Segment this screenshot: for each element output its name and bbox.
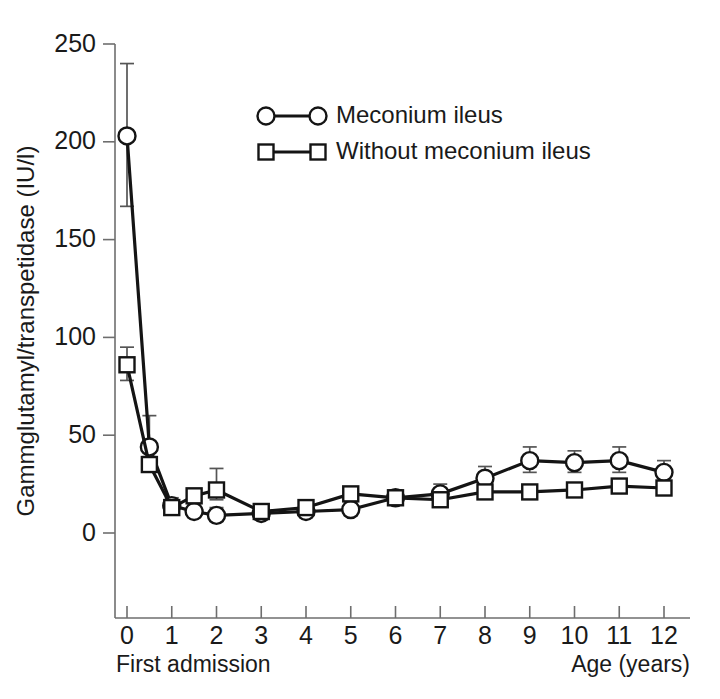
data-point-square-marker — [567, 482, 582, 497]
x-tick-label: 9 — [523, 621, 537, 649]
x-tick-label: 4 — [299, 621, 313, 649]
data-point-square-marker — [164, 500, 179, 515]
data-point-square-marker — [657, 481, 672, 496]
x-tick-label: 0 — [120, 621, 134, 649]
data-point-square-marker — [343, 486, 358, 501]
series-markers — [120, 357, 672, 519]
chart-figure: 050100150200250 0123456789101112 Gammglu… — [0, 0, 720, 699]
data-point-square-marker — [254, 504, 269, 519]
data-point-square-marker — [120, 357, 135, 372]
data-series-group — [119, 64, 673, 524]
series-markers — [119, 127, 673, 523]
data-point-square-marker — [187, 488, 202, 503]
series-without-meconium-ileus — [120, 347, 672, 519]
axes — [115, 44, 690, 618]
data-point-circle-marker — [258, 108, 275, 125]
x-axis-ticks: 0123456789101112 — [120, 606, 678, 649]
x-tick-label: 8 — [478, 621, 492, 649]
y-tick-label: 200 — [54, 126, 96, 154]
data-point-circle-marker — [342, 501, 359, 518]
data-point-circle-marker — [521, 452, 538, 469]
x-tick-label: 10 — [561, 621, 589, 649]
data-point-square-marker — [209, 482, 224, 497]
legend-label: Meconium ileus — [336, 101, 503, 128]
y-tick-label: 250 — [54, 29, 96, 57]
data-point-square-marker — [433, 492, 448, 507]
data-point-circle-marker — [119, 127, 136, 144]
gammaglutamyl-transpeptidase-line-chart: 050100150200250 0123456789101112 Gammglu… — [0, 0, 720, 699]
y-axis-title: Gammglutamyl/transpetidase (IU/l) — [12, 146, 39, 517]
data-point-square-marker — [388, 490, 403, 505]
data-point-circle-marker — [566, 454, 583, 471]
chart-legend: Meconium ileusWithout meconium ileus — [258, 101, 591, 164]
data-point-circle-marker — [186, 503, 203, 520]
data-point-circle-marker — [208, 507, 225, 524]
data-point-circle-marker — [310, 108, 327, 125]
legend-item-meconium-ileus: Meconium ileus — [258, 101, 503, 128]
x-tick-label: 6 — [389, 621, 403, 649]
data-point-square-marker — [142, 457, 157, 472]
data-point-square-marker — [522, 484, 537, 499]
y-tick-label: 50 — [68, 420, 96, 448]
x-tick-label: 2 — [210, 621, 224, 649]
data-point-circle-marker — [656, 464, 673, 481]
x-axis-origin-label: First admission — [116, 651, 271, 677]
x-tick-label: 5 — [344, 621, 358, 649]
legend-item-without-meconium-ileus: Without meconium ileus — [259, 137, 591, 164]
y-tick-label: 100 — [54, 322, 96, 350]
series-polyline — [127, 136, 664, 515]
data-point-circle-marker — [611, 452, 628, 469]
x-tick-label: 1 — [165, 621, 179, 649]
data-point-square-marker — [478, 484, 493, 499]
legend-label: Without meconium ileus — [336, 137, 591, 164]
x-tick-label: 11 — [606, 621, 632, 649]
data-point-square-marker — [612, 479, 627, 494]
data-point-square-marker — [299, 500, 314, 515]
y-axis-ticks: 050100150200250 — [54, 29, 115, 546]
data-point-square-marker — [311, 145, 326, 160]
y-tick-label: 0 — [82, 518, 96, 546]
x-axis-title: Age (years) — [571, 651, 690, 677]
x-tick-label: 7 — [433, 621, 447, 649]
data-point-square-marker — [259, 145, 274, 160]
error-bars — [120, 64, 671, 522]
y-tick-label: 150 — [54, 224, 96, 252]
series-meconium-ileus — [119, 64, 673, 524]
x-tick-label: 3 — [254, 621, 268, 649]
x-tick-label: 12 — [650, 621, 678, 649]
